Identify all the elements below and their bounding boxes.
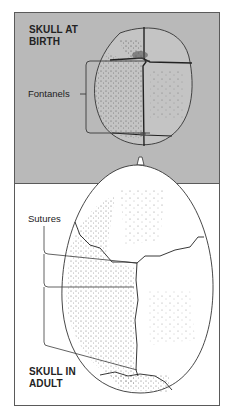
birth-title-line2: BIRTH — [29, 36, 78, 48]
skull-illustration — [0, 0, 232, 411]
adult-title-line2: ADULT — [29, 378, 76, 390]
adult-title-line1: SKULL IN — [29, 366, 76, 378]
adult-title: SKULL IN ADULT — [29, 366, 76, 390]
birth-title-line1: SKULL AT — [29, 24, 78, 36]
birth-title: SKULL AT BIRTH — [29, 24, 78, 48]
adult-skull — [44, 157, 213, 393]
sutures-label: Sutures — [28, 213, 61, 224]
birth-skull — [80, 27, 192, 146]
fontanels-label: Fontanels — [28, 88, 70, 99]
